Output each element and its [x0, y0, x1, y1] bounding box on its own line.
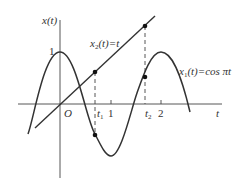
sample-point-x1-t1 — [93, 133, 98, 138]
x-tick-label-2: 2 — [158, 107, 164, 119]
origin-label: O — [64, 107, 72, 119]
x-tick-label-t2: t2 — [145, 107, 152, 121]
x-tick-label-1: 1 — [108, 107, 114, 119]
sampling-diagram: x(t) 1 O t t1 1 t2 2 x2(t)=t x1(t)=cos π… — [0, 0, 234, 181]
curve-label-x1: x1(t)=cos πt — [178, 65, 232, 79]
sample-point-x1-t2 — [143, 75, 148, 80]
curve-label-x2: x2(t)=t — [89, 37, 120, 51]
x-axis-label: t — [216, 107, 220, 119]
y-axis-label: x(t) — [41, 14, 58, 27]
x-tick-label-t1: t1 — [97, 107, 104, 121]
y-tick-label-1: 1 — [49, 45, 55, 57]
sample-point-x2-t2 — [143, 24, 148, 29]
sample-point-x2-t1 — [93, 70, 98, 75]
